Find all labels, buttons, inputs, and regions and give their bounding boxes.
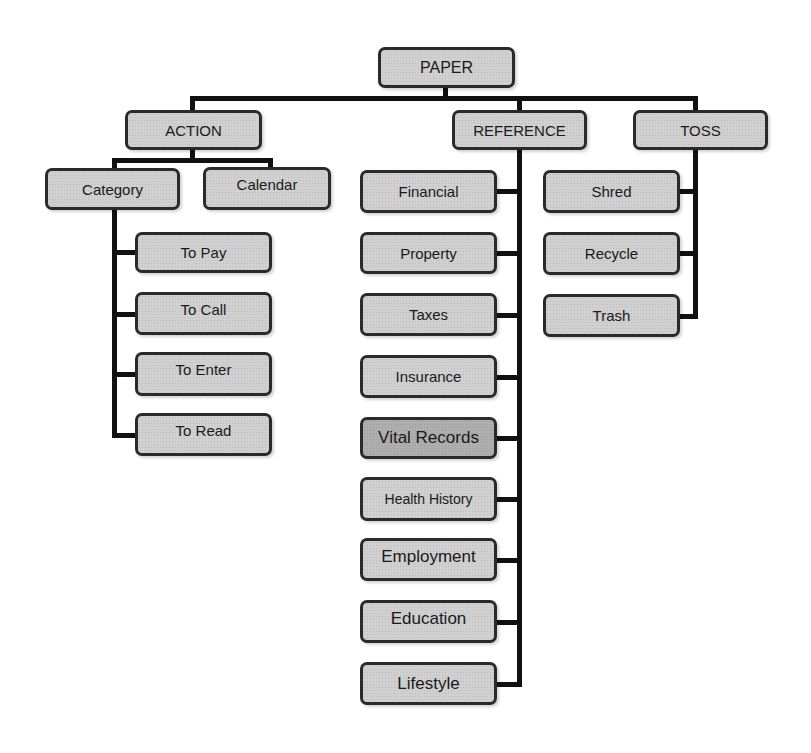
connector-root-bar <box>190 96 698 101</box>
node-label: Property <box>400 245 457 262</box>
node-label: Insurance <box>396 368 462 385</box>
node-label: ACTION <box>165 122 222 139</box>
connector-toread <box>112 433 137 438</box>
node-lifestyle[interactable]: Lifestyle <box>360 662 497 705</box>
node-label: TOSS <box>680 122 721 139</box>
connector-shred <box>678 189 696 194</box>
node-health-history[interactable]: Health History <box>360 477 497 521</box>
node-employment[interactable]: Employment <box>360 538 497 581</box>
node-action[interactable]: ACTION <box>125 110 262 150</box>
connector-taxes <box>495 313 520 318</box>
node-recycle[interactable]: Recycle <box>543 232 680 275</box>
node-to-call[interactable]: To Call <box>135 292 272 335</box>
node-toss[interactable]: TOSS <box>633 110 768 150</box>
node-vital-records[interactable]: Vital Records <box>360 417 497 459</box>
paper-organization-tree: PAPER ACTION REFERENCE TOSS Category Cal… <box>0 0 811 753</box>
connector-employment <box>495 558 520 563</box>
node-shred[interactable]: Shred <box>543 170 680 213</box>
connector-toss-spine <box>693 149 698 319</box>
node-financial[interactable]: Financial <box>360 170 497 213</box>
node-label: PAPER <box>420 59 473 77</box>
node-paper[interactable]: PAPER <box>378 47 515 88</box>
node-category[interactable]: Category <box>45 168 180 210</box>
node-label: Education <box>391 609 467 629</box>
node-taxes[interactable]: Taxes <box>360 293 497 336</box>
node-label: Vital Records <box>378 428 479 448</box>
node-trash[interactable]: Trash <box>543 294 680 337</box>
connector-lifestyle <box>495 682 522 687</box>
node-education[interactable]: Education <box>360 600 497 643</box>
node-property[interactable]: Property <box>360 232 497 274</box>
connector-vital-records <box>495 436 520 441</box>
connector-recycle <box>678 251 696 256</box>
node-to-enter[interactable]: To Enter <box>135 352 272 396</box>
connector-financial <box>495 189 520 194</box>
node-calendar[interactable]: Calendar <box>203 167 331 210</box>
connector-trash <box>678 314 698 319</box>
node-label: Lifestyle <box>397 674 459 694</box>
node-label: Shred <box>591 183 631 200</box>
connector-reference-spine <box>517 149 522 687</box>
node-label: To Enter <box>176 361 232 378</box>
node-to-read[interactable]: To Read <box>135 413 272 456</box>
node-label: Category <box>82 181 143 198</box>
connector-insurance <box>495 375 520 380</box>
connector-action-bar <box>112 158 273 163</box>
node-label: Health History <box>385 491 473 507</box>
node-insurance[interactable]: Insurance <box>360 355 497 398</box>
node-label: Taxes <box>409 306 448 323</box>
connector-property <box>495 251 520 256</box>
node-reference[interactable]: REFERENCE <box>452 110 587 150</box>
node-label: Financial <box>398 183 458 200</box>
node-label: To Call <box>181 301 227 318</box>
node-label: REFERENCE <box>473 122 566 139</box>
connector-tocall <box>112 312 137 317</box>
connector-education <box>495 620 520 625</box>
node-label: Calendar <box>237 176 298 193</box>
node-label: To Pay <box>181 244 227 261</box>
node-label: Recycle <box>585 245 638 262</box>
node-label: Trash <box>593 307 631 324</box>
connector-toenter <box>112 372 137 377</box>
node-label: To Read <box>176 422 232 439</box>
connector-category-spine <box>112 209 117 438</box>
node-to-pay[interactable]: To Pay <box>135 232 272 273</box>
connector-topay <box>112 250 137 255</box>
connector-health-history <box>495 497 520 502</box>
node-label: Employment <box>381 547 475 567</box>
